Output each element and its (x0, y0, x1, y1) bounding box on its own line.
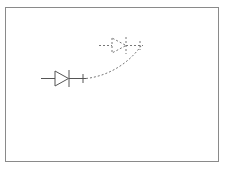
ghost-diode-symbol[interactable] (99, 37, 143, 54)
schematic-drawing (0, 0, 226, 172)
ghost-diode-triangle (112, 38, 126, 53)
diode-symbol[interactable] (41, 70, 86, 87)
dashed-connection-curve (86, 46, 141, 79)
diode-triangle (55, 71, 69, 86)
